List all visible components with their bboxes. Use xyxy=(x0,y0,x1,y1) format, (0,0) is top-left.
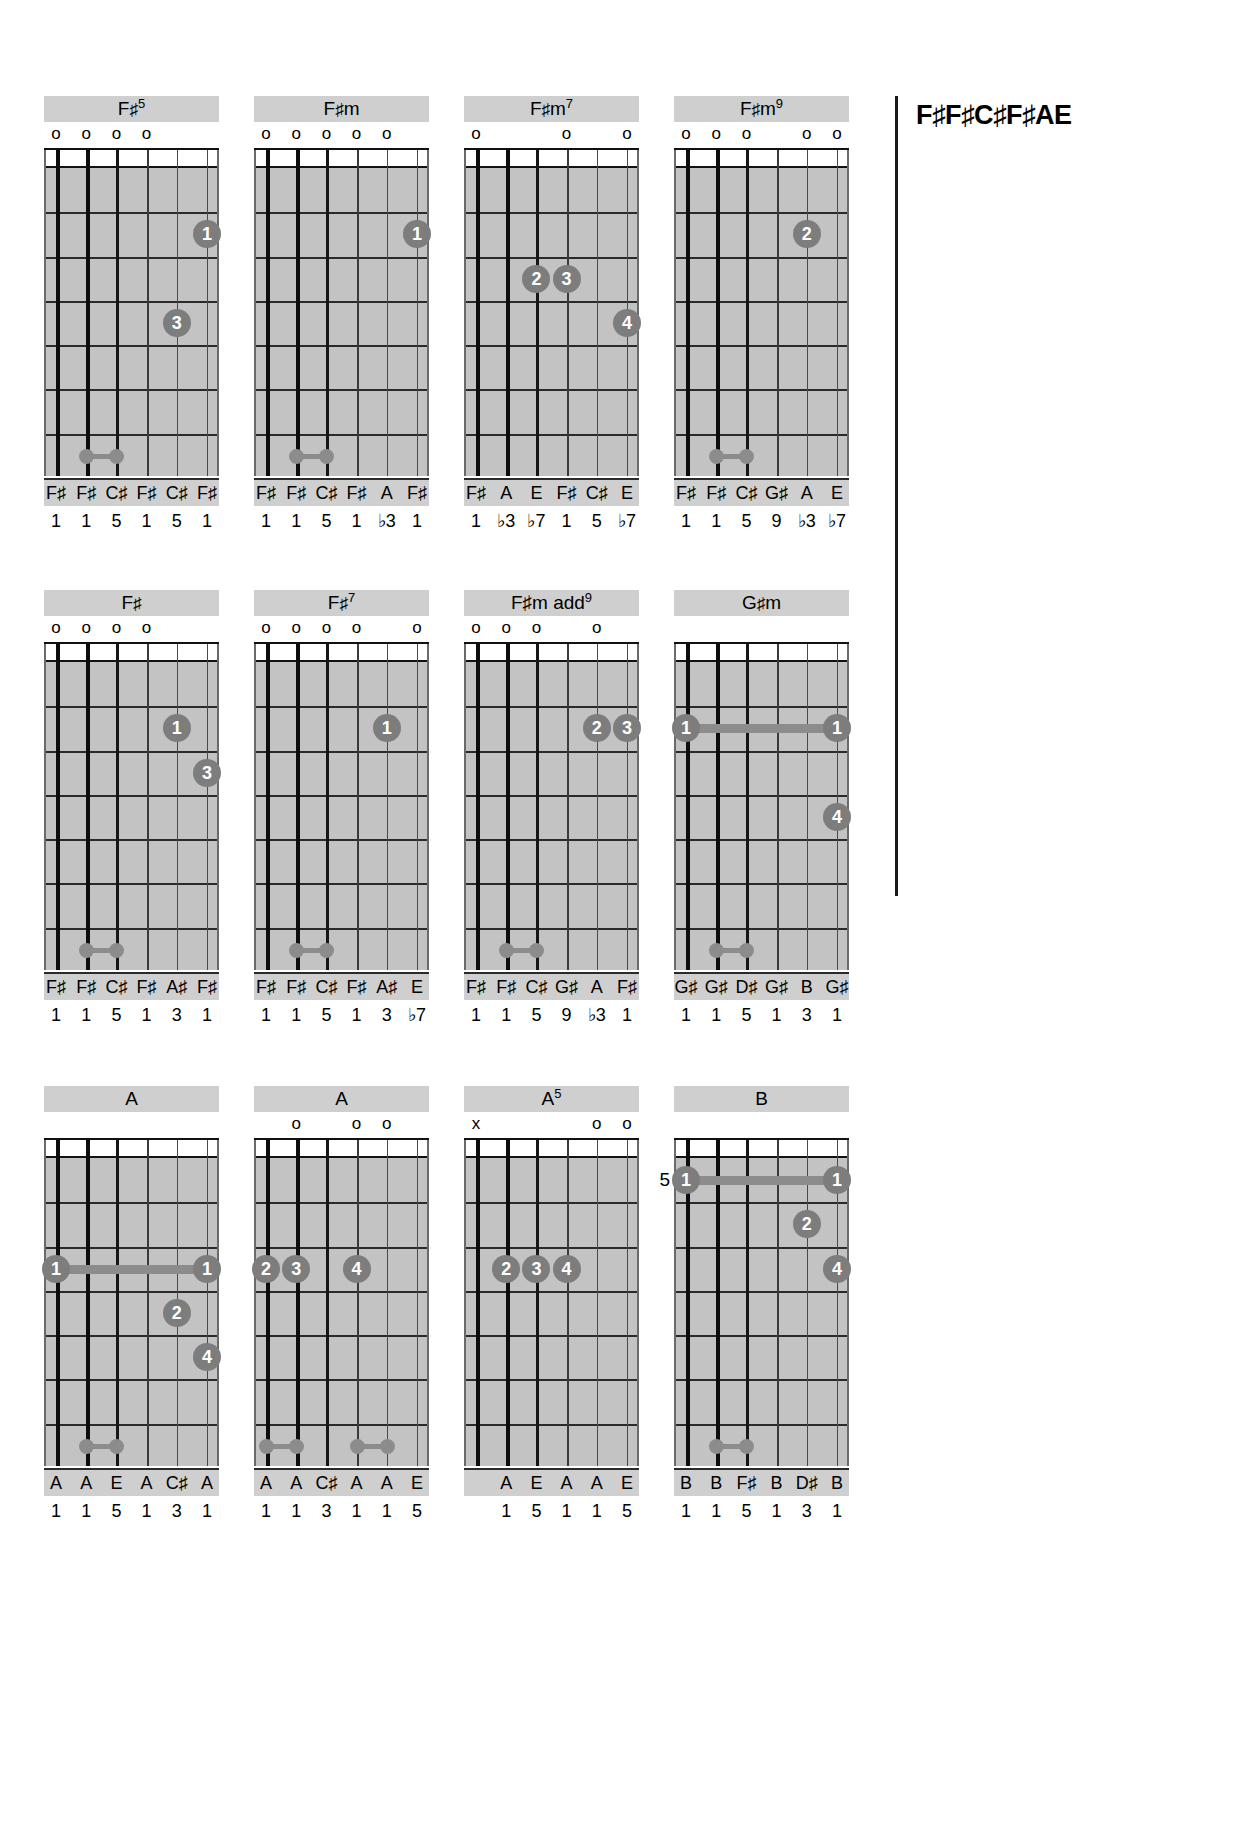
note-name: E xyxy=(519,1472,553,1494)
fret-line xyxy=(254,928,429,930)
chord-title: F♯m7 xyxy=(464,96,639,122)
guitar-string xyxy=(326,644,329,970)
guitar-string xyxy=(387,150,388,476)
chord-title-root: F xyxy=(740,98,752,119)
open-string-icon: o xyxy=(379,125,395,143)
fret-line xyxy=(254,257,429,259)
chord-title-quality: m xyxy=(550,98,566,119)
guitar-string xyxy=(807,150,808,476)
fretboard: 23 xyxy=(464,642,639,970)
guitar-string xyxy=(207,150,208,476)
fret-line xyxy=(254,1379,429,1381)
fret-line xyxy=(674,212,849,214)
interval-degrees-row: 115131 xyxy=(44,1000,219,1030)
note-name: F♯ xyxy=(610,976,644,998)
guitar-string xyxy=(296,644,300,970)
guitar-string xyxy=(597,150,598,476)
board-edge xyxy=(427,150,429,476)
interval-degree: 5 xyxy=(519,1500,553,1522)
guitar-string xyxy=(326,1140,329,1466)
string-pair-dot xyxy=(739,449,754,464)
chord-chart-page: F♯F♯C♯F♯AE F♯5oooo13F♯F♯C♯F♯C♯F♯115151F♯… xyxy=(0,0,1252,1825)
open-string-icon: o xyxy=(78,125,94,143)
interval-degree: ♭7 xyxy=(820,510,854,532)
open-string-icon: o xyxy=(678,125,694,143)
fret-line xyxy=(464,1335,639,1337)
interval-degrees-row: 1151♭31 xyxy=(254,506,429,536)
fret-line xyxy=(464,751,639,753)
string-pair-dot xyxy=(709,1439,724,1454)
note-names-strip: AAEAC♯A xyxy=(44,1470,219,1496)
guitar-string xyxy=(326,150,329,476)
fret-line xyxy=(254,795,429,797)
string-pair-dot xyxy=(739,943,754,958)
note-names-strip: AAC♯AAE xyxy=(254,1470,429,1496)
note-name: E xyxy=(610,482,644,504)
interval-degree: 3 xyxy=(160,1004,194,1026)
guitar-string xyxy=(296,1140,300,1466)
fret-line xyxy=(254,1291,429,1293)
fret-line xyxy=(464,839,639,841)
note-name: E xyxy=(610,1472,644,1494)
fret-line xyxy=(44,257,219,259)
fret-line xyxy=(464,1291,639,1293)
interval-degree: 1 xyxy=(610,1004,644,1026)
note-names-strip: AEAAE xyxy=(464,1470,639,1496)
note-name: F♯ xyxy=(699,482,733,504)
string-pair-dot xyxy=(529,943,544,958)
note-name: E xyxy=(400,1472,434,1494)
fret-line xyxy=(254,1335,429,1337)
interval-degree: 1 xyxy=(580,1500,614,1522)
fret-line xyxy=(464,301,639,303)
interval-degree: 5 xyxy=(309,510,343,532)
interval-degree: 1 xyxy=(130,1004,164,1026)
note-name: A xyxy=(550,1472,584,1494)
fret-line xyxy=(44,1424,219,1426)
string-pair-dot xyxy=(259,1439,274,1454)
open-string-icon: o xyxy=(108,619,124,637)
string-pair-dot xyxy=(319,943,334,958)
interval-degree: 1 xyxy=(459,510,493,532)
finger-dot: 4 xyxy=(553,1255,581,1283)
finger-dot: 1 xyxy=(42,1255,70,1283)
board-edge xyxy=(217,150,219,476)
interval-degree: 1 xyxy=(699,1500,733,1522)
chord-title-quality: m xyxy=(344,98,360,119)
sharp-icon: ♯ xyxy=(129,100,138,119)
open-string-icon: o xyxy=(738,125,754,143)
string-pair-dot xyxy=(350,1439,365,1454)
note-name: F♯ xyxy=(550,482,584,504)
chord-card: F♯5oooo13F♯F♯C♯F♯C♯F♯115151 xyxy=(44,96,219,536)
fret-line xyxy=(464,212,639,214)
guitar-string xyxy=(567,1140,569,1466)
nut xyxy=(674,150,849,168)
chord-title: B xyxy=(674,1086,849,1112)
chord-card: F♯m9ooooo2F♯F♯C♯G♯AE1159♭3♭7 xyxy=(674,96,849,536)
guitar-string xyxy=(746,150,749,476)
chord-title-extension: 9 xyxy=(585,590,592,605)
guitar-string xyxy=(147,644,149,970)
note-name: E xyxy=(99,1472,133,1494)
fret-line xyxy=(254,706,429,708)
chord-title: F♯7 xyxy=(254,590,429,616)
interval-degree: 3 xyxy=(370,1004,404,1026)
sharp-icon: ♯ xyxy=(752,100,761,119)
interval-degree: 1 xyxy=(69,1500,103,1522)
barre-bar xyxy=(686,724,837,733)
chord-title-extension: 5 xyxy=(554,1086,561,1101)
interval-degree: 5 xyxy=(160,510,194,532)
chord-card: Aooo234AAC♯AAE113115 xyxy=(254,1086,429,1526)
open-string-icon: o xyxy=(619,1115,635,1133)
guitar-string xyxy=(86,644,90,970)
fret-line xyxy=(674,301,849,303)
interval-degree: 5 xyxy=(729,510,763,532)
note-name: F♯ xyxy=(130,976,164,998)
string-pair-dot xyxy=(289,943,304,958)
interval-degree: ♭3 xyxy=(489,510,523,532)
chord-card: G♯m114G♯G♯D♯G♯BG♯115131 xyxy=(674,590,849,1030)
open-string-icon: o xyxy=(468,125,484,143)
string-pair-dot xyxy=(109,449,124,464)
string-pair-dot xyxy=(709,943,724,958)
board-edge xyxy=(674,644,676,970)
fret-line xyxy=(254,839,429,841)
